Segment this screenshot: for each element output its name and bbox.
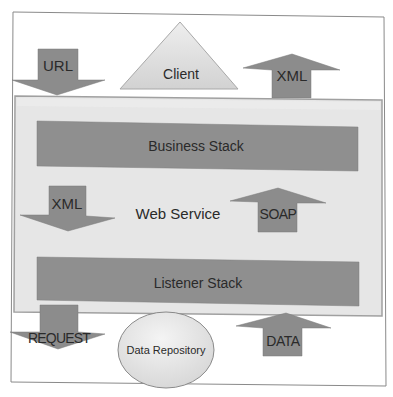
- request-arrow-label: REQUEST: [28, 330, 91, 346]
- url-arrow-label: URL: [43, 57, 73, 74]
- client-label: Client: [163, 66, 199, 82]
- web-service-label: Web Service: [136, 205, 221, 222]
- data-arrow-label: DATA: [266, 333, 300, 349]
- business-stack-label: Business Stack: [148, 138, 245, 154]
- listener-stack-label: Listener Stack: [154, 275, 244, 291]
- soap-arrow-label: SOAP: [260, 206, 297, 222]
- xml-middle-arrow-label: XML: [52, 195, 83, 212]
- web-service-diagram: URL Client XML Business Stack XML Web Se…: [0, 0, 393, 397]
- data-repository-label: Data Repository: [127, 344, 206, 356]
- xml-top-arrow-label: XML: [277, 67, 308, 84]
